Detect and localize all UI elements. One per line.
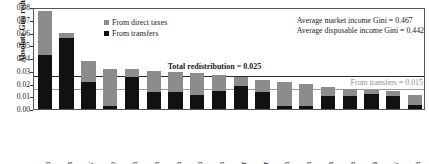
bar-slot <box>208 9 230 109</box>
bar-segment-direct-taxes <box>190 73 204 95</box>
gini-market-text: Average market income Gini = 0.467 <box>297 16 424 26</box>
stacked-bar <box>255 80 269 109</box>
legend-item-transfers: From transfers <box>104 28 167 39</box>
stacked-bar <box>38 11 52 109</box>
stacked-bar <box>364 90 378 109</box>
legend-label-transfers: From transfers <box>112 30 158 38</box>
bar-segment-transfers <box>212 91 226 109</box>
x-axis-label-text: Indonesia <box>414 162 422 164</box>
stacked-bar <box>103 69 117 109</box>
x-axis-label-text: Paraguay <box>392 162 400 164</box>
bar-segment-transfers <box>234 86 248 109</box>
x-axis-label: Albania <box>185 111 207 163</box>
x-axis-label-text: Panama <box>218 162 226 164</box>
stacked-bar <box>168 72 182 109</box>
bar-segment-direct-taxes <box>408 95 422 105</box>
y-tick-mark <box>30 34 33 35</box>
x-axis-label-text: Uganda <box>305 162 313 164</box>
y-tick-label: 0.05 <box>6 42 30 50</box>
stacked-bar <box>386 91 400 109</box>
y-tick-mark <box>30 97 33 98</box>
chart-legend: From direct taxes From transfers <box>104 17 167 39</box>
legend-item-direct-taxes: From direct taxes <box>104 17 167 28</box>
bar-slot <box>34 9 56 109</box>
total-redistribution-label: Total redistribution = 0.025 <box>168 62 261 72</box>
y-tick-label: 0.02 <box>6 81 30 89</box>
bar-segment-direct-taxes <box>299 84 313 107</box>
bar-segment-transfers <box>168 92 182 109</box>
x-axis-label-text: Tanzania <box>175 162 183 164</box>
stacked-bar <box>299 84 313 110</box>
chart-figure: Absolute Gini reduction 0.000.010.020.03… <box>0 0 429 164</box>
x-axis-label: Iran <box>55 111 77 163</box>
x-axis-label: Mexico <box>98 111 120 163</box>
x-axis-label: Peru <box>360 111 382 163</box>
x-axis-label: Russia <box>120 111 142 163</box>
stacked-bar <box>59 33 73 110</box>
stacked-bar <box>234 77 248 109</box>
stacked-bar <box>277 82 291 109</box>
x-axis-label: Indonesia <box>403 111 425 163</box>
bar-segment-direct-taxes <box>103 69 117 106</box>
x-axis-label-text: Albania <box>196 162 204 164</box>
x-axis-label-text: Ecuador <box>262 162 270 164</box>
x-axis-label: Armenia <box>142 111 164 163</box>
bar-segment-direct-taxes <box>343 89 357 97</box>
y-tick-label: 0.03 <box>6 68 30 76</box>
x-axis-label: Uruguay <box>77 111 99 163</box>
gini-annotation: Average market income Gini = 0.467 Avera… <box>297 16 424 35</box>
bar-slot <box>78 9 100 109</box>
x-axis-label-text: Mexico <box>109 162 117 164</box>
y-tick-label: 0.00 <box>6 106 30 114</box>
x-axis-label-text: Armenia <box>153 162 161 164</box>
bar-segment-transfers <box>103 106 117 109</box>
bar-segment-direct-taxes <box>255 80 269 93</box>
bar-segment-transfers <box>299 106 313 109</box>
x-axis-label: Paraguay <box>381 111 403 163</box>
legend-swatch-direct-taxes-icon <box>104 20 109 25</box>
bar-segment-direct-taxes <box>277 82 291 106</box>
stacked-bar <box>147 71 161 109</box>
x-axis-label: Panama <box>207 111 229 163</box>
bar-slot <box>252 9 274 109</box>
x-axis-label-text: Russia <box>131 162 139 164</box>
stacked-bar <box>125 69 139 109</box>
bar-slot <box>56 9 78 109</box>
from-transfers-label: From transfers = 0.015 <box>351 78 423 88</box>
stacked-bar <box>343 89 357 109</box>
bar-slot <box>274 9 296 109</box>
bar-segment-transfers <box>386 96 400 109</box>
bar-segment-transfers <box>81 82 95 109</box>
bar-segment-direct-taxes <box>321 87 335 96</box>
y-tick-mark <box>30 46 33 47</box>
bar-segment-direct-taxes <box>234 77 248 86</box>
y-tick-label: 0.08 <box>6 4 30 12</box>
y-tick-mark <box>30 72 33 73</box>
bar-slot <box>186 9 208 109</box>
y-tick-label: 0.07 <box>6 17 30 25</box>
bar-segment-direct-taxes <box>38 11 52 56</box>
x-axis-label: Ecuador <box>251 111 273 163</box>
x-axis-label-text: Uruguay <box>87 162 95 164</box>
bar-segment-direct-taxes <box>125 69 139 77</box>
y-tick-label: 0.06 <box>6 30 30 38</box>
stacked-bar <box>212 75 226 109</box>
x-axis-category-labels: South africaIranUruguayMexicoRussiaArmen… <box>33 111 425 164</box>
y-tick-mark <box>30 21 33 22</box>
bar-segment-direct-taxes <box>81 61 95 83</box>
y-tick-label: 0.01 <box>6 93 30 101</box>
bar-segment-transfers <box>125 77 139 109</box>
bar-segment-transfers <box>59 38 73 109</box>
x-axis-label-text: El Salvador <box>240 162 248 164</box>
legend-label-direct-taxes: From direct taxes <box>112 19 167 27</box>
x-axis-label-text: South africa <box>44 162 52 164</box>
x-axis-label: Colombia <box>338 111 360 163</box>
x-axis-label-text: Ghana <box>283 162 291 164</box>
bar-segment-direct-taxes <box>147 71 161 93</box>
legend-swatch-transfers-icon <box>104 31 109 36</box>
x-axis-label: Uganda <box>294 111 316 163</box>
gini-disposable-text: Average disposable income Gini = 0.442 <box>297 26 424 36</box>
bar-segment-transfers <box>343 96 357 109</box>
x-axis-label: Ghana <box>273 111 295 163</box>
bar-segment-transfers <box>364 94 378 109</box>
